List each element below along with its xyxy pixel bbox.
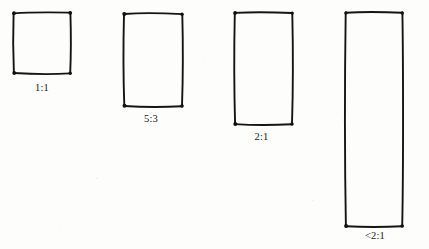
square-1-1-outline (12, 11, 72, 75)
scan-speckle (96, 178, 98, 179)
scan-speckle (204, 62, 205, 63)
rectangle-5-3-outline (122, 12, 184, 108)
scan-speckle (312, 200, 314, 201)
rectangle-less-than-2-1-outline (344, 11, 404, 228)
ratio-label-1-1: 1:1 (12, 82, 72, 93)
ratio-label-less-than-2-1: <2:1 (344, 230, 406, 241)
scan-speckle (60, 226, 61, 227)
ratio-label-5-3: 5:3 (120, 113, 182, 124)
figure-rectangle-less-than-2-1 (344, 11, 404, 228)
rectangle-2-1-outline (233, 11, 294, 126)
figure-rectangle-5-3 (122, 12, 184, 108)
sketch-canvas: 1:1 5:3 2:1 (0, 0, 429, 249)
figure-rectangle-2-1 (233, 11, 294, 126)
ratio-label-2-1: 2:1 (231, 131, 292, 142)
figure-square-1-1 (12, 11, 72, 75)
